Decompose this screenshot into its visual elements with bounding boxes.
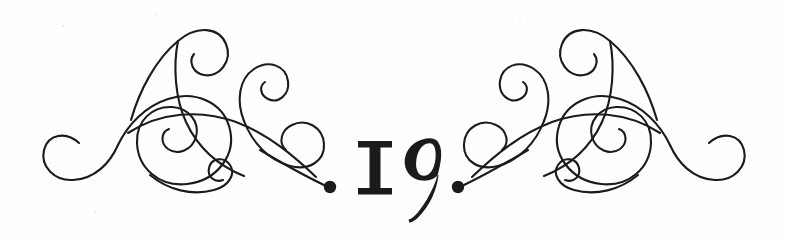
page-number-group	[358, 138, 441, 222]
right-flourish	[452, 30, 745, 193]
page-number-digit-nine	[405, 138, 442, 222]
left-second-spiral-icon	[240, 64, 289, 121]
page-ornament-illustration	[0, 0, 788, 237]
ornament-page: 19 left-flourish right-flourish	[0, 0, 788, 237]
right-terminal-dot	[452, 181, 464, 193]
right-second-spiral-icon	[500, 64, 549, 121]
right-second-loop	[464, 121, 544, 167]
left-interlace-ribbon	[128, 114, 316, 177]
right-outer-hook-icon	[670, 136, 745, 180]
digit-nine-glyph	[405, 138, 442, 222]
left-flourish	[43, 30, 336, 193]
right-top-stem	[544, 41, 613, 176]
right-interlace-ribbon	[472, 114, 660, 177]
left-outer-hook-icon	[43, 136, 118, 180]
left-terminal-dot	[324, 181, 336, 193]
left-top-stem	[175, 41, 244, 176]
digit-one-glyph	[358, 141, 392, 195]
page-number-digit-one	[358, 141, 392, 195]
left-second-loop	[244, 121, 324, 167]
